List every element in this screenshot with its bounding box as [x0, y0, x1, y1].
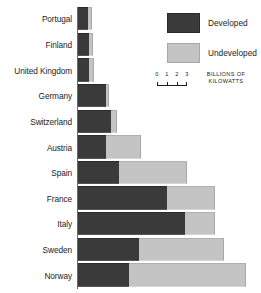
- scale-tick-mark: [186, 82, 187, 86]
- scale-tick-mark: [157, 82, 158, 86]
- bar-row: [78, 110, 117, 133]
- scale-unit-caption-line: BILLIONS OF: [197, 71, 255, 78]
- bar-row: [78, 135, 141, 158]
- scale-tick-label: 0: [155, 71, 158, 78]
- bar-segment-developed: [78, 33, 89, 56]
- category-label: Spain: [0, 169, 72, 178]
- bar-row: [78, 161, 187, 184]
- bar-segment-undeveloped: [119, 161, 187, 184]
- bar-segment-developed: [78, 84, 106, 107]
- category-label: Finland: [0, 41, 72, 50]
- bar-row: [78, 186, 215, 209]
- bar-segment-developed: [78, 238, 139, 261]
- bar-segment-developed: [78, 212, 185, 235]
- bar-segment-undeveloped: [89, 58, 94, 81]
- bar-segment-developed: [78, 263, 129, 286]
- bar-segment-undeveloped: [88, 7, 92, 30]
- bar-segment-developed: [78, 58, 89, 81]
- bar-segment-undeveloped: [185, 212, 216, 235]
- bar-segment-undeveloped: [139, 238, 224, 261]
- bar-segment-developed: [78, 161, 119, 184]
- category-label: Portugal: [0, 15, 72, 24]
- legend-swatch-light: [167, 43, 200, 63]
- legend-swatch-dark: [167, 13, 200, 33]
- bar-segment-undeveloped: [106, 84, 109, 107]
- category-label: Austria: [0, 144, 72, 153]
- bar-segment-undeveloped: [129, 263, 246, 286]
- category-label: United Kingdom: [0, 67, 72, 76]
- legend-item: Undeveloped: [167, 43, 261, 65]
- bar-segment-developed: [78, 135, 106, 158]
- scale-ruler: [157, 81, 187, 86]
- bar-segment-developed: [78, 7, 88, 30]
- category-label: Italy: [0, 220, 72, 229]
- category-label: Norway: [0, 272, 72, 281]
- category-label: Sweden: [0, 246, 72, 255]
- bar-segment-undeveloped: [106, 135, 142, 158]
- category-label: Germany: [0, 92, 72, 101]
- bar-segment-undeveloped: [89, 33, 93, 56]
- bar-row: [78, 212, 215, 235]
- legend-item: Developed: [167, 13, 261, 35]
- hydroelectric-power-chart: PortugalFinlandUnited KingdomGermanySwit…: [0, 0, 261, 293]
- scale-unit-caption-line: KILOWATTS: [197, 78, 255, 85]
- scale-unit-caption: BILLIONS OFKILOWATTS: [197, 71, 255, 86]
- legend-label: Undeveloped: [208, 48, 257, 58]
- bar-row: [78, 84, 109, 107]
- bar-segment-undeveloped: [111, 110, 117, 133]
- legend-label: Developed: [208, 18, 248, 28]
- scale-tick-labels: 0123: [157, 71, 191, 80]
- scale-tick-label: 1: [165, 71, 168, 78]
- category-axis-labels: PortugalFinlandUnited KingdomGermanySwit…: [0, 0, 76, 293]
- bar-segment-developed: [78, 186, 167, 209]
- chart-legend: DevelopedUndeveloped: [167, 13, 261, 73]
- scale-tick-mark: [177, 82, 178, 86]
- scale-tick-label: 3: [185, 71, 188, 78]
- category-label: France: [0, 195, 72, 204]
- bar-segment-undeveloped: [167, 186, 215, 209]
- bar-row: [78, 7, 92, 30]
- bar-row: [78, 238, 224, 261]
- scale-tick-label: 2: [175, 71, 178, 78]
- bar-segment-developed: [78, 110, 111, 133]
- bar-row: [78, 263, 246, 286]
- bar-row: [78, 33, 93, 56]
- category-label: Switzerland: [0, 118, 72, 127]
- bar-row: [78, 58, 94, 81]
- scale-ruler-line: [157, 85, 187, 86]
- scale-tick-mark: [167, 82, 168, 86]
- scale-bar: 0123 BILLIONS OFKILOWATTS: [156, 71, 261, 86]
